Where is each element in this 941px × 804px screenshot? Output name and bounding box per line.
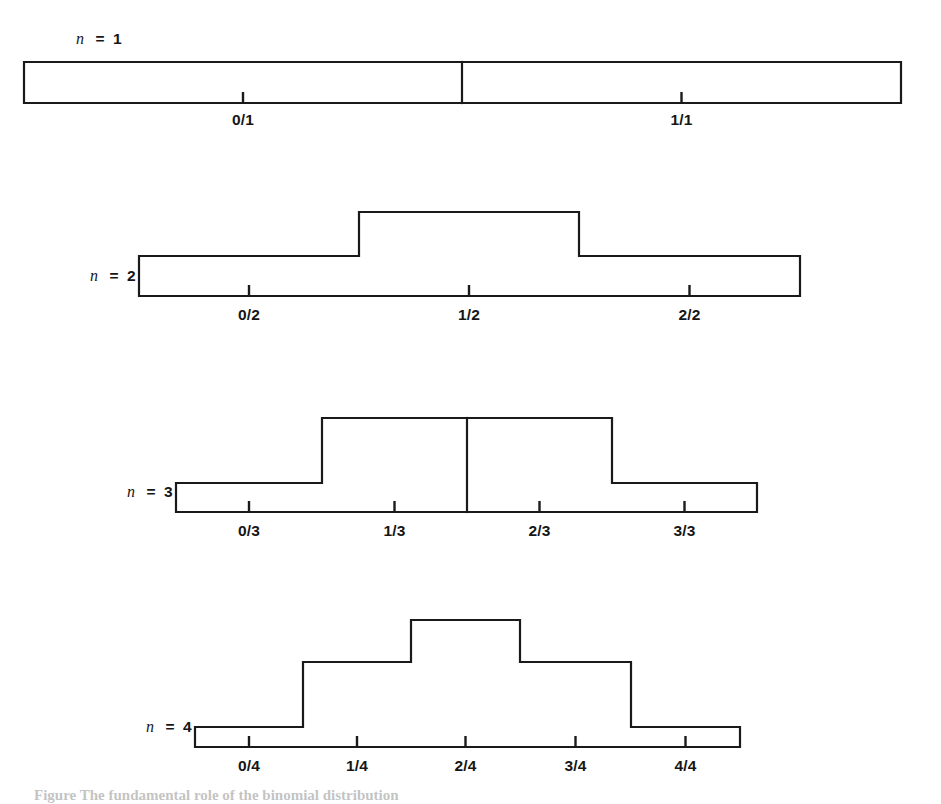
figure-caption: Figure The fundamental role of the binom… <box>34 787 399 804</box>
tick-label: 1/3 <box>383 522 405 539</box>
row-label-n-symbol: n <box>90 267 98 284</box>
tick-label: 4/4 <box>674 757 696 774</box>
bar-silhouette <box>139 212 800 296</box>
row-n2: 0/21/22/2n=2 <box>90 212 800 323</box>
tick-label: 1/1 <box>670 111 692 128</box>
row-n3: 0/31/32/33/3n=3 <box>127 418 757 539</box>
tick-label: 1/4 <box>346 757 368 774</box>
row-label-value: 3 <box>164 483 173 500</box>
row-label-equals: = <box>109 267 118 284</box>
row-label-value: 1 <box>113 30 122 47</box>
row-label-value: 4 <box>183 718 192 735</box>
row-label-equals: = <box>165 718 174 735</box>
tick-label: 2/4 <box>454 757 476 774</box>
row-n4: 0/41/42/43/44/4n=4 <box>146 620 740 774</box>
row-label-n-symbol: n <box>76 30 84 47</box>
tick-label: 0/3 <box>238 522 260 539</box>
tick-label: 1/2 <box>458 306 480 323</box>
tick-label: 0/2 <box>238 306 260 323</box>
row-label-equals: = <box>95 30 104 47</box>
row-n1: 0/11/1n=1 <box>24 30 901 128</box>
tick-label: 2/2 <box>678 306 700 323</box>
tick-label: 0/4 <box>238 757 260 774</box>
tick-label: 3/4 <box>564 757 586 774</box>
row-label-n-symbol: n <box>127 483 135 500</box>
row-label-value: 2 <box>127 267 136 284</box>
row-label-n-symbol: n <box>146 718 154 735</box>
tick-label: 3/3 <box>673 522 695 539</box>
row-label-equals: = <box>146 483 155 500</box>
bar-silhouette <box>195 620 740 747</box>
tick-label: 2/3 <box>528 522 550 539</box>
tick-label: 0/1 <box>232 111 254 128</box>
